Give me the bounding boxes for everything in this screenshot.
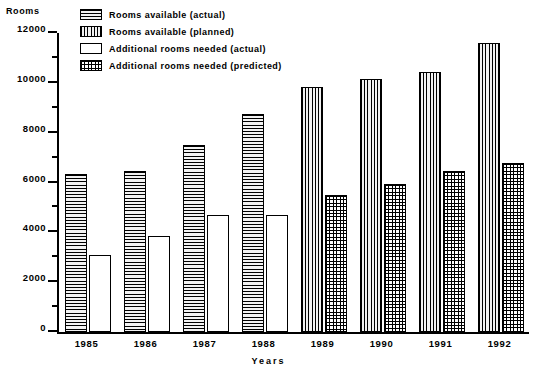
bar (301, 87, 323, 332)
bar-group-1987 (177, 33, 236, 332)
bar (242, 114, 264, 332)
y-axis-tick-label: 2000 (23, 272, 46, 283)
bar (443, 171, 465, 332)
y-axis-major-tick (48, 181, 57, 183)
x-axis-tick-label: 1989 (311, 338, 335, 349)
y-axis-minor-tick (52, 56, 57, 58)
y-axis-title: Rooms (6, 6, 40, 16)
y-axis-tick-label: 4000 (23, 222, 46, 233)
y-axis-tick-label: 6000 (23, 172, 46, 183)
bar-group-1985 (59, 33, 118, 332)
bar (207, 215, 229, 332)
bar-group-1992 (472, 33, 531, 332)
bar (89, 255, 111, 332)
bar-group-1991 (413, 33, 472, 332)
y-axis-tick-label: 10000 (17, 72, 46, 83)
x-axis-tick-labels: 19851986198719881989199019911992 (57, 338, 529, 352)
y-axis-major-tick (48, 330, 57, 332)
y-axis-minor-tick (52, 205, 57, 207)
x-axis-title: Years (0, 356, 537, 366)
bar (183, 145, 205, 332)
y-axis-major-tick (48, 81, 57, 83)
bar (360, 79, 382, 332)
bar (124, 171, 146, 332)
y-axis-tick-label: 8000 (23, 122, 46, 133)
legend-item: Rooms available (actual) (80, 6, 380, 23)
x-axis-tick-label: 1992 (488, 338, 512, 349)
bar-chart: Rooms Rooms available (actual)Rooms avai… (0, 0, 537, 371)
plot-area: 020004000600080001000012000 (57, 33, 529, 334)
x-axis-tick-label: 1985 (75, 338, 99, 349)
bar (325, 195, 347, 332)
y-axis-minor-tick (52, 255, 57, 257)
x-axis-tick-label: 1986 (134, 338, 158, 349)
bar-group-1989 (295, 33, 354, 332)
x-axis-tick-label: 1987 (193, 338, 217, 349)
legend-item-label: Rooms available (actual) (109, 10, 225, 20)
legend-swatch-horizontal-lines-icon (80, 9, 102, 20)
bar (478, 43, 500, 332)
bar (384, 184, 406, 332)
y-axis-tick-label: 0 (40, 322, 46, 333)
bar (419, 72, 441, 332)
y-axis-minor-tick (52, 305, 57, 307)
y-axis-minor-tick (52, 106, 57, 108)
bar (148, 236, 170, 332)
bar (502, 163, 524, 332)
y-axis-major-tick (48, 280, 57, 282)
bar-group-1988 (236, 33, 295, 332)
bar (65, 174, 87, 332)
bar-group-1986 (118, 33, 177, 332)
y-axis-tick-label: 12000 (17, 23, 46, 34)
bar (266, 215, 288, 332)
x-axis-line (57, 332, 529, 334)
y-axis-major-tick (48, 230, 57, 232)
y-axis-minor-tick (52, 156, 57, 158)
bar-group-1990 (354, 33, 413, 332)
x-axis-tick-label: 1988 (252, 338, 276, 349)
y-axis-major-tick (48, 131, 57, 133)
x-axis-tick-label: 1990 (370, 338, 394, 349)
y-axis-major-tick (48, 31, 57, 33)
bar-groups (59, 33, 529, 332)
x-axis-tick-label: 1991 (429, 338, 453, 349)
